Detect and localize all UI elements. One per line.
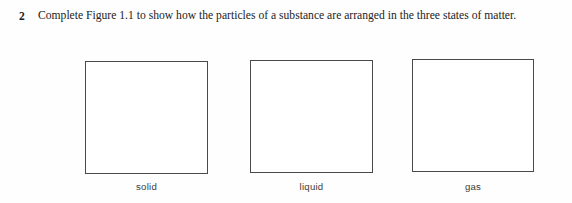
figure-1-1: solid liquid gas: [0, 0, 572, 203]
answer-box-liquid[interactable]: [250, 60, 373, 173]
worksheet-page: 2 Complete Figure 1.1 to show how the pa…: [0, 0, 572, 203]
answer-box-solid[interactable]: [85, 61, 208, 174]
answer-box-gas[interactable]: [412, 59, 534, 172]
question-number: 2: [19, 9, 25, 23]
state-label-liquid: liquid: [250, 181, 373, 192]
state-label-solid: solid: [85, 181, 208, 192]
state-label-gas: gas: [412, 181, 534, 192]
question-text: Complete Figure 1.1 to show how the part…: [38, 9, 566, 23]
